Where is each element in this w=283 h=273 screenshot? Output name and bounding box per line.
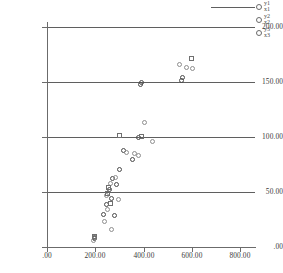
legend-leader-line [211,7,255,8]
gridline [47,82,255,83]
legend-label: y2 x2 [264,13,270,25]
data-point-y3 [108,201,113,206]
data-point-y1 [130,157,135,162]
legend-label: y3 x3 [264,26,270,38]
data-point-y3 [92,234,97,239]
data-point-y1 [101,212,106,217]
data-point-y1 [112,213,117,218]
legend-label-x: x1 [264,6,270,12]
data-point-y2 [184,65,189,70]
plot-area [47,22,255,247]
gridline [47,137,255,138]
x-tick-label: 800.00 [218,251,262,260]
y-tick-label: 50.00 [243,188,283,196]
data-point-y3 [117,133,122,138]
data-point-y3 [106,185,111,190]
legend-marker-icon [256,4,262,10]
legend-item[interactable]: y3 x3 [253,27,283,40]
legend-label-x: x2 [264,19,270,25]
gridline [47,27,255,28]
legend-marker-icon [256,17,262,23]
data-point-y2 [190,66,195,71]
y-tick-label: 100.00 [243,133,283,141]
gridline [47,192,255,193]
legend-label: y1 x1 [264,0,270,12]
data-point-y1 [117,167,122,172]
legend-label-x: x3 [264,32,270,38]
scatter-chart: .0050.00100.00150.00200.00 .00200.00400.… [0,0,283,273]
x-tick-label: 600.00 [170,251,214,260]
x-tick-label: 400.00 [122,251,166,260]
data-point-y3 [189,56,194,61]
data-point-y1 [114,182,119,187]
data-point-y3 [105,191,110,196]
data-point-y2 [91,238,96,243]
legend: y1 x1 y2 x2 y3 x3 [253,1,283,40]
x-tick-label: 200.00 [73,251,117,260]
legend-marker-icon [256,30,262,36]
data-point-y3 [139,134,144,139]
x-tick-label: .00 [25,251,69,260]
y-tick-label: 150.00 [243,78,283,86]
y-axis-line [47,22,48,248]
data-point-y2 [109,227,114,232]
x-axis-line [47,247,256,248]
